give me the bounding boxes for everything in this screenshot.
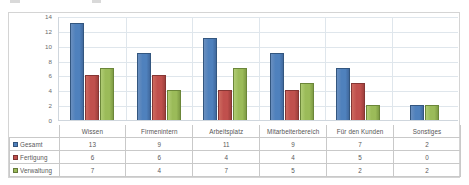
legend-swatch-icon (13, 155, 18, 160)
bar[interactable] (351, 83, 365, 120)
table-value-cell: 2 (394, 138, 461, 151)
bar-group (392, 17, 459, 120)
chart-container: 14121086420 WissenFirmeninternArbeitspla… (8, 12, 460, 178)
bar[interactable] (233, 68, 247, 120)
table-category-header: Arbeitsplatz (193, 125, 260, 138)
bar[interactable] (70, 23, 84, 120)
bar[interactable] (152, 75, 166, 120)
bar-group (59, 17, 126, 120)
y-axis: 14121086420 (9, 17, 56, 121)
bar[interactable] (167, 90, 181, 120)
y-axis-tick-label: 8 (48, 59, 52, 65)
table-value-cell: 4 (260, 151, 327, 164)
bar[interactable] (137, 53, 151, 120)
table-category-header: Wissen (59, 125, 126, 138)
table-value-cell: 9 (126, 138, 193, 151)
legend-swatch-icon (13, 142, 18, 147)
crop-artifact-left (10, 0, 20, 3)
table-row: Gesamt13911972 (10, 138, 461, 151)
table-value-cell: 7 (327, 138, 394, 151)
table-category-header: Für den Kunden (327, 125, 394, 138)
bar-groups (59, 17, 458, 120)
legend-entry-label: Fertigung (20, 154, 48, 161)
table-value-cell: 2 (327, 164, 394, 177)
bar-group (325, 17, 392, 120)
table-row: Verwaltung747522 (10, 164, 461, 177)
y-axis-tick-label: 12 (45, 29, 52, 35)
table-value-cell: 5 (260, 164, 327, 177)
y-axis-tick-label: 10 (45, 44, 52, 50)
y-axis-tick-label: 14 (45, 14, 52, 20)
table-value-cell: 6 (126, 151, 193, 164)
table-category-header: Sonstiges (394, 125, 461, 138)
plot-region: 14121086420 (9, 13, 461, 125)
legend-entry-gesamt: Gesamt (10, 138, 60, 151)
table-corner-cell (10, 125, 60, 138)
table-value-cell: 11 (193, 138, 260, 151)
legend-entry-label: Verwaltung (20, 167, 52, 174)
table-value-cell: 7 (193, 164, 260, 177)
y-axis-tick-label: 2 (48, 103, 52, 109)
legend-entry-verwaltung: Verwaltung (10, 164, 60, 177)
table-value-cell: 6 (59, 151, 126, 164)
bar[interactable] (100, 68, 114, 120)
table-value-cell: 2 (394, 164, 461, 177)
table-value-cell: 4 (126, 164, 193, 177)
bar-group (126, 17, 193, 120)
table-value-cell: 0 (394, 151, 461, 164)
table-category-header: Firmenintern (126, 125, 193, 138)
crop-artifact-right (92, 0, 101, 3)
table-value-cell: 7 (59, 164, 126, 177)
bar[interactable] (300, 83, 314, 120)
bar-group (259, 17, 326, 120)
chart-data-table: WissenFirmeninternArbeitsplatzMitarbeite… (9, 125, 461, 177)
bar-group (192, 17, 259, 120)
y-axis-tick-label: 4 (48, 88, 52, 94)
bar[interactable] (425, 105, 439, 120)
bar[interactable] (410, 105, 424, 120)
table-value-cell: 5 (327, 151, 394, 164)
bar[interactable] (366, 105, 380, 120)
bar[interactable] (270, 53, 284, 120)
bar[interactable] (218, 90, 232, 120)
bar[interactable] (336, 68, 350, 120)
legend-entry-fertigung: Fertigung (10, 151, 60, 164)
table-value-cell: 4 (193, 151, 260, 164)
table-value-cell: 13 (59, 138, 126, 151)
y-axis-tick-label: 6 (48, 73, 52, 79)
legend-swatch-icon (13, 168, 18, 173)
bar[interactable] (203, 38, 217, 120)
table-row-categories: WissenFirmeninternArbeitsplatzMitarbeite… (10, 125, 461, 138)
table-value-cell: 9 (260, 138, 327, 151)
y-axis-tick-label: 0 (48, 118, 52, 124)
bar[interactable] (85, 75, 99, 120)
legend-entry-label: Gesamt (20, 141, 43, 148)
plot-area (58, 17, 458, 121)
table-row: Fertigung664450 (10, 151, 461, 164)
bar[interactable] (285, 90, 299, 120)
table-category-header: Mitarbeiterbereich (260, 125, 327, 138)
